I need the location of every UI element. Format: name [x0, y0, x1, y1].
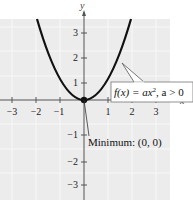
y-tick-label: −1 — [67, 129, 78, 140]
y-tick-label: 2 — [73, 52, 78, 63]
y-tick-label: −3 — [67, 179, 78, 190]
x-tick-label: 1 — [106, 106, 111, 117]
x-tick-label: 2 — [130, 106, 135, 117]
x-tick-label: −1 — [54, 106, 65, 117]
x-tick-label: 3 — [154, 106, 159, 117]
function-label-lhs: f(x) = ax — [114, 86, 153, 99]
x-tick-label: −3 — [7, 106, 18, 117]
y-tick-label: 1 — [73, 77, 78, 88]
function-label-rhs: , a > 0 — [156, 86, 184, 98]
x-tick-label: −2 — [31, 106, 42, 117]
y-tick-label: 3 — [73, 27, 78, 38]
parabola-chart: x y −3 −2 −1 1 2 3 3 2 1 −1 −2 −3 Minimu… — [0, 0, 193, 208]
y-axis-label: y — [79, 0, 85, 11]
y-tick-label: −2 — [67, 156, 78, 167]
function-label: f(x) = ax2, a > 0 — [114, 86, 184, 99]
minimum-label: Minimum: (0, 0) — [88, 136, 162, 149]
